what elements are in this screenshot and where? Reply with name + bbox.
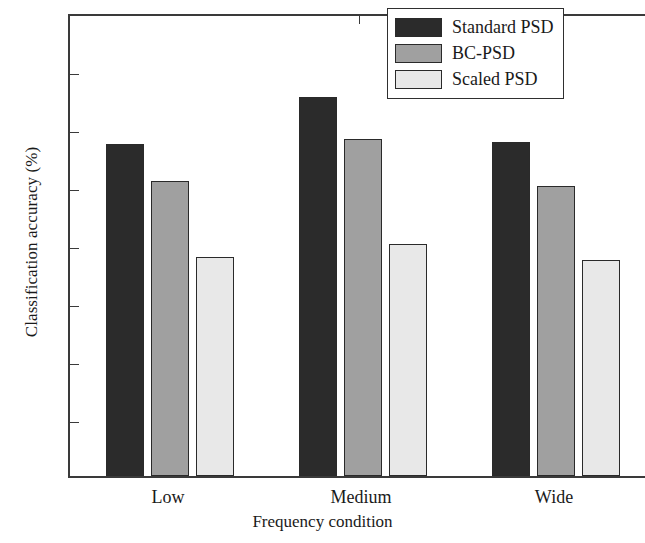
y-axis-tick <box>70 306 79 307</box>
top-axis-tick <box>359 16 360 24</box>
bar-chart-figure: Classification accuracy (%) 010203040506… <box>0 0 645 543</box>
legend-swatch <box>395 44 442 63</box>
bar <box>299 97 337 476</box>
legend-label: Standard PSD <box>452 18 554 36</box>
legend-label: Scaled PSD <box>452 70 538 88</box>
bar <box>537 186 575 476</box>
bar <box>492 142 530 476</box>
legend-item: BC-PSD <box>395 40 554 66</box>
x-axis-tick-label: Wide <box>535 487 573 508</box>
bar <box>196 257 234 476</box>
legend-item: Scaled PSD <box>395 66 554 92</box>
bar <box>106 144 144 476</box>
y-axis-tick <box>70 422 79 423</box>
legend-label: BC-PSD <box>452 44 515 62</box>
bar <box>151 181 189 476</box>
x-axis-tick-label: Medium <box>331 487 392 508</box>
legend-swatch <box>395 18 442 37</box>
y-axis-tick <box>70 248 79 249</box>
y-axis-tick <box>70 74 79 75</box>
y-axis-tick <box>70 132 79 133</box>
y-axis-tick <box>70 190 79 191</box>
y-axis-title: Classification accuracy (%) <box>22 92 42 392</box>
legend-swatch <box>395 70 442 89</box>
bar <box>389 244 427 476</box>
x-axis-title: Frequency condition <box>0 512 645 532</box>
bar <box>582 260 620 476</box>
y-axis-tick <box>70 364 79 365</box>
chart-legend: Standard PSDBC-PSDScaled PSD <box>387 8 564 99</box>
legend-item: Standard PSD <box>395 14 554 40</box>
x-axis-tick-label: Low <box>152 487 185 508</box>
bar <box>344 139 382 476</box>
